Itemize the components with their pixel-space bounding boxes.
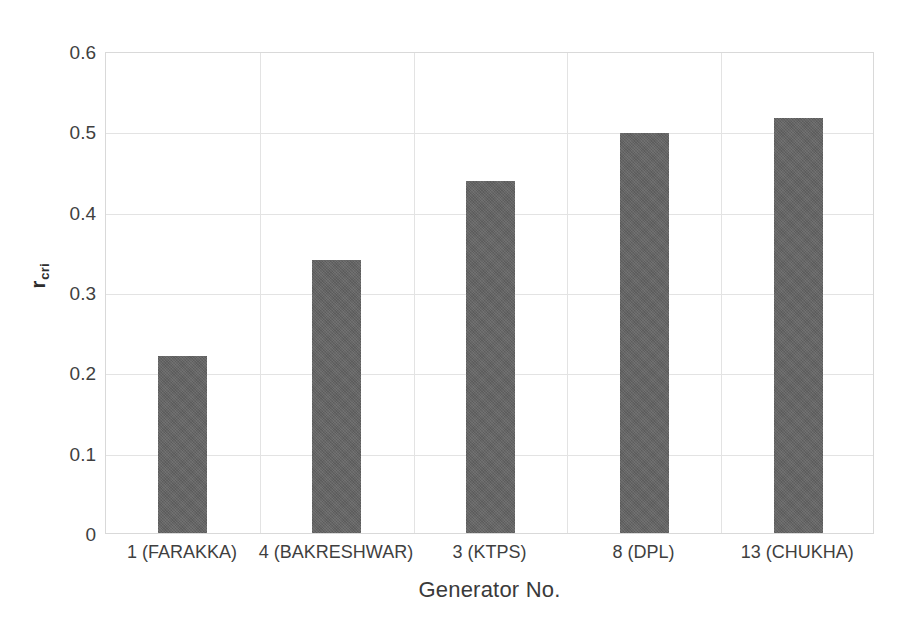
x-tick-label: 13 (CHUKHA) <box>720 540 874 564</box>
y-tick-label: 0.6 <box>50 43 96 62</box>
x-axis-tick-labels: 1 (FARAKKA) 4 (BAKRESHWAR) 3 (KTPS) 8 (D… <box>105 540 874 570</box>
bar-4-bakreshwar <box>312 260 361 533</box>
x-tick-label: 3 (KTPS) <box>413 540 567 564</box>
y-tick-label: 0.4 <box>50 203 96 222</box>
x-axis-title: Generator No. <box>105 576 874 604</box>
bar-8-dpl <box>620 133 669 533</box>
bar-chart: rcri 0 0.1 0.2 0.3 0.4 0.5 0.6 1 <box>0 0 912 627</box>
y-tick-label: 0 <box>50 525 96 544</box>
x-tick-label: 4 (BAKRESHWAR) <box>259 540 413 564</box>
y-tick-label: 0.5 <box>50 123 96 142</box>
bar-1-farakka <box>158 356 207 533</box>
y-tick-label: 0.1 <box>50 444 96 463</box>
y-tick-label: 0.2 <box>50 364 96 383</box>
bar-13-chukha <box>774 118 823 533</box>
x-tick-label: 8 (DPL) <box>566 540 720 564</box>
y-axis-tick-labels: 0 0.1 0.2 0.3 0.4 0.5 0.6 <box>46 52 96 534</box>
y-tick-label: 0.3 <box>50 284 96 303</box>
plot-area <box>105 52 874 534</box>
bar-3-ktps <box>466 181 515 533</box>
bars-layer <box>106 53 873 533</box>
x-tick-label: 1 (FARAKKA) <box>105 540 259 564</box>
